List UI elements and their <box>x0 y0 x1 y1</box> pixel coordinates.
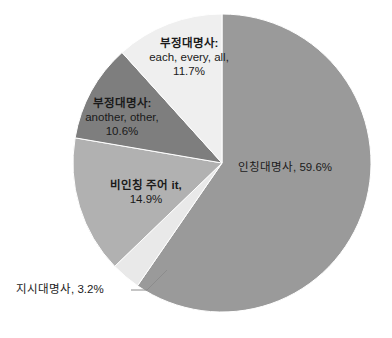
slice-label-demonstrative: 지시대명사, 3.2% <box>16 282 104 296</box>
slice-label-indefinite-another-percent: 10.6% <box>52 124 192 138</box>
slice-label-indefinite-another-name: 부정대명사: <box>52 96 192 110</box>
slice-label-indefinite-another-sub: another, other, <box>52 110 192 124</box>
slice-label-indefinite-each-every-all: 부정대명사: each, every, all, 11.7% <box>124 36 254 78</box>
slice-label-indefinite-each-sub: each, every, all, <box>124 50 254 64</box>
slice-label-impersonal-it: 비인칭 주어 it, 14.9% <box>86 178 206 206</box>
slice-label-impersonal-it-percent: 14.9% <box>86 192 206 206</box>
slice-label-indefinite-each-name: 부정대명사: <box>124 36 254 50</box>
slice-label-demonstrative-text: 지시대명사, 3.2% <box>16 282 104 296</box>
slice-label-impersonal-it-name: 비인칭 주어 it, <box>86 178 206 192</box>
slice-label-personal-pronoun-text: 인칭대명사, 59.6% <box>238 160 332 174</box>
slice-label-indefinite-each-percent: 11.7% <box>124 64 254 78</box>
slice-label-indefinite-another-other: 부정대명사: another, other, 10.6% <box>52 96 192 138</box>
pie-chart: 인칭대명사, 59.6% 부정대명사: each, every, all, 11… <box>0 0 392 338</box>
slice-label-personal-pronoun: 인칭대명사, 59.6% <box>238 160 332 174</box>
